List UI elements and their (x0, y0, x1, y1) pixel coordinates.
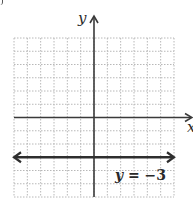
equation-variable: y (115, 167, 123, 183)
y-axis-label: y (78, 9, 86, 27)
equation-label: y = −3 (115, 167, 166, 183)
x-axis-label: x (187, 118, 193, 136)
equation-value: = −3 (123, 167, 166, 183)
